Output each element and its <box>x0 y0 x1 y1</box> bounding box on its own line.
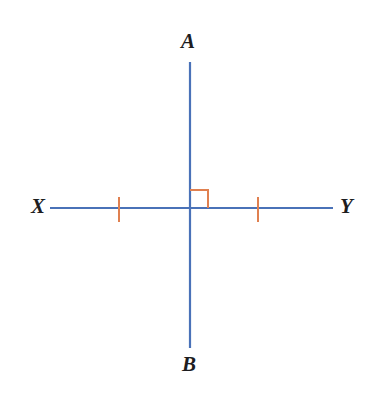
diagram-svg <box>0 0 374 407</box>
label-point-b: B <box>182 354 196 375</box>
label-point-a: A <box>181 31 195 52</box>
right-angle-marker <box>190 190 208 208</box>
label-point-x: X <box>31 196 45 217</box>
geometry-diagram: A B X Y <box>0 0 374 407</box>
label-point-y: Y <box>340 196 353 217</box>
